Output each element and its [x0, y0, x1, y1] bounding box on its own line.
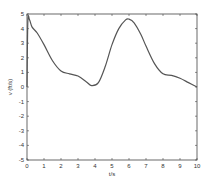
x-tick-label: 1: [42, 163, 46, 169]
x-tick-label: 3: [76, 163, 80, 169]
y-tick-label: -1: [19, 99, 25, 105]
y-tick-label: -4: [19, 142, 25, 148]
x-tick-label: 7: [144, 163, 148, 169]
y-tick-label: -3: [19, 128, 25, 134]
y-tick-label: 2: [21, 55, 25, 61]
x-tick-label: 9: [178, 163, 182, 169]
x-tick-label: 0: [25, 163, 29, 169]
x-axis-label: t/s: [109, 171, 115, 177]
x-tick-label: 10: [194, 163, 201, 169]
x-tick-label: 6: [127, 163, 131, 169]
x-tick-label: 5: [110, 163, 114, 169]
y-tick-label: -2: [19, 113, 25, 119]
y-tick-label: 3: [21, 40, 25, 46]
y-tick-label: 4: [21, 26, 25, 32]
line-chart: 012345678910 -5-4-3-2-1012345 t/s v (ft/…: [0, 0, 208, 179]
y-tick-label: -5: [19, 157, 25, 163]
y-tick-label: 0: [21, 84, 25, 90]
y-tick-label: 1: [21, 69, 25, 75]
y-axis-label: v (ft/s): [7, 79, 13, 96]
x-tick-label: 4: [93, 163, 97, 169]
y-tick-label: 5: [21, 11, 25, 17]
x-tick-label: 2: [59, 163, 63, 169]
plot-area: [27, 14, 197, 160]
x-tick-label: 8: [161, 163, 165, 169]
